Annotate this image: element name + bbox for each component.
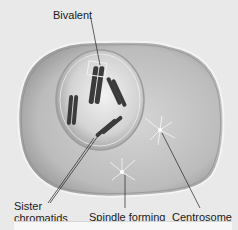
caption-bar (14, 221, 232, 230)
cell-illustration (0, 0, 238, 230)
diagram-canvas: Bivalent Sister chromatids Spindle formi… (0, 0, 238, 230)
label-sister-chromatids-line1: Sister (14, 200, 42, 212)
label-bivalent: Bivalent (53, 9, 92, 21)
